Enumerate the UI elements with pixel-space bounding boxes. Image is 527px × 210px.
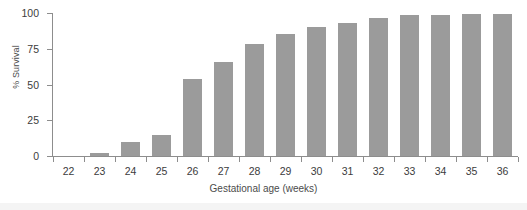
bar-slot	[394, 13, 425, 156]
x-tick	[332, 157, 333, 162]
plot-area: 0255075100 22232425262728293031323334353…	[52, 13, 518, 156]
x-tick-slot	[425, 157, 456, 162]
bar	[183, 79, 202, 156]
bottom-divider-band	[0, 203, 527, 210]
x-tick-slot	[115, 157, 146, 162]
x-tick	[177, 157, 178, 162]
bar	[369, 18, 388, 156]
bar-slot	[208, 13, 239, 156]
x-tick-label: 33	[394, 165, 425, 177]
y-tick: 50	[47, 85, 52, 86]
x-tick-label: 26	[177, 165, 208, 177]
x-tick-slot	[208, 157, 239, 162]
x-tick	[425, 157, 426, 162]
y-tick-label: 100	[21, 7, 39, 19]
x-tick-label: 28	[239, 165, 270, 177]
bar-slot	[425, 13, 456, 156]
x-tick-slot	[239, 157, 270, 162]
bar	[307, 27, 326, 156]
x-tick-slot	[487, 157, 518, 162]
y-tick-label: 50	[27, 79, 39, 91]
x-tick-slot	[270, 157, 301, 162]
x-tick-label: 35	[456, 165, 487, 177]
bar-slot	[239, 13, 270, 156]
x-tick-slot	[456, 157, 487, 162]
bars-container	[53, 13, 518, 156]
bar-slot	[270, 13, 301, 156]
bar	[152, 135, 171, 156]
x-tick-label: 30	[301, 165, 332, 177]
bar	[493, 14, 512, 156]
x-tick	[363, 157, 364, 162]
y-tick-label: 0	[33, 150, 39, 162]
x-tick-label: 29	[270, 165, 301, 177]
x-tick	[239, 157, 240, 162]
bar-slot	[177, 13, 208, 156]
x-tick	[115, 157, 116, 162]
x-axis-labels: 222324252627282930313233343536	[53, 165, 518, 177]
bar-slot	[487, 13, 518, 156]
x-tick-label: 34	[425, 165, 456, 177]
bar	[338, 23, 357, 156]
y-axis-title: % Survival	[11, 27, 21, 107]
x-tick-slot	[332, 157, 363, 162]
x-tick-slot	[301, 157, 332, 162]
x-tick-label: 32	[363, 165, 394, 177]
x-tick	[518, 157, 519, 162]
bar	[121, 142, 140, 156]
bar	[400, 15, 419, 156]
y-tick: 25	[47, 120, 52, 121]
bar-slot	[456, 13, 487, 156]
bar-slot	[332, 13, 363, 156]
x-tick-slot	[146, 157, 177, 162]
x-tick-label: 23	[84, 165, 115, 177]
x-tick	[487, 157, 488, 162]
survival-bar-chart: % Survival 0255075100 222324252627282930…	[0, 0, 527, 210]
bar	[245, 44, 264, 156]
x-tick-slot	[53, 157, 84, 162]
bar	[90, 153, 109, 156]
x-tick-label: 27	[208, 165, 239, 177]
x-axis-title: Gestational age (weeks)	[0, 183, 527, 194]
x-tick	[301, 157, 302, 162]
bar	[214, 62, 233, 156]
bar-slot	[53, 13, 84, 156]
x-tick	[84, 157, 85, 162]
x-tick-label: 24	[115, 165, 146, 177]
x-tick-slot	[394, 157, 425, 162]
x-tick-slot	[84, 157, 115, 162]
bar-slot	[115, 13, 146, 156]
x-tick	[208, 157, 209, 162]
bar-slot	[84, 13, 115, 156]
y-tick-label: 25	[27, 114, 39, 126]
x-tick-label: 25	[146, 165, 177, 177]
y-tick-label: 75	[27, 43, 39, 55]
bar	[276, 34, 295, 156]
x-tick-label: 36	[487, 165, 518, 177]
y-tick: 0	[47, 156, 52, 157]
y-tick: 100	[47, 13, 52, 14]
x-tick-slot	[363, 157, 394, 162]
x-tick-label: 22	[53, 165, 84, 177]
bar	[462, 14, 481, 156]
x-tick-slot	[177, 157, 208, 162]
x-tick	[53, 157, 54, 162]
x-tick	[456, 157, 457, 162]
x-axis-ticks	[53, 157, 518, 162]
y-tick: 75	[47, 49, 52, 50]
bar-slot	[363, 13, 394, 156]
x-tick-label: 31	[332, 165, 363, 177]
x-tick	[146, 157, 147, 162]
bar-slot	[301, 13, 332, 156]
bar	[431, 15, 450, 156]
bar-slot	[146, 13, 177, 156]
x-tick	[270, 157, 271, 162]
x-tick	[394, 157, 395, 162]
